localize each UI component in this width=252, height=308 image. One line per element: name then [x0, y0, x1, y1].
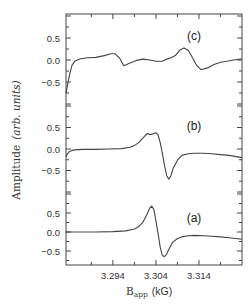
x-tick-label: 3.304 — [144, 270, 168, 281]
y-tick-label: −0.5 — [41, 246, 60, 257]
panel-labels: (c)(b)(a) — [187, 29, 202, 225]
y-axis-title-units: (arb. units) — [10, 80, 22, 139]
spectra-curves — [66, 48, 242, 257]
spectrum-curve-c — [66, 48, 242, 93]
x-axis-title-sub: app — [134, 290, 148, 299]
y-tick-label: −0.5 — [41, 77, 60, 88]
panel-label: (a) — [187, 211, 202, 225]
x-tick-label: 3.294 — [101, 270, 125, 281]
y-tick-label: 0.0 — [47, 144, 60, 155]
spectrum-curve-a — [66, 206, 242, 257]
x-axis-title: Bapp(kG) — [126, 285, 172, 299]
panel-label: (c) — [187, 29, 201, 43]
panel-label: (b) — [187, 119, 202, 133]
y-tick-label: 0.0 — [47, 227, 60, 238]
x-tick-label: 3.314 — [187, 270, 211, 281]
spectrum-curve-b — [66, 133, 242, 179]
plot-frame — [66, 14, 242, 265]
y-tick-label: 0.5 — [47, 208, 60, 219]
y-axis-title-main: Amplitude — [10, 145, 22, 201]
y-tick-label: −0.5 — [41, 165, 60, 176]
y-tick-label: 0.5 — [47, 33, 60, 44]
chart: 3.2943.3043.314 0.50.0−0.50.50.0−0.50.50… — [0, 0, 252, 308]
y-tick-label: 0.0 — [47, 55, 60, 66]
y-axis-title: Amplitude(arb. units) — [10, 80, 22, 200]
y-tick-label: 0.5 — [47, 122, 60, 133]
x-axis-title-unit: (kG) — [152, 285, 172, 297]
